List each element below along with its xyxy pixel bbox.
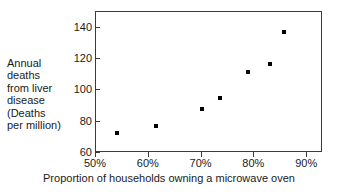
x-axis-tick-label: 60%	[137, 157, 159, 169]
y-axis-tick	[95, 27, 100, 28]
y-axis-tick	[95, 58, 100, 59]
x-axis-tick-label: 50%	[84, 157, 106, 169]
y-axis-label-line: from liver	[7, 82, 69, 94]
plot-frame	[95, 11, 322, 152]
y-axis-label: Annualdeathsfrom liverdisease(Deathsper …	[7, 57, 69, 131]
y-axis-tick-label: 140	[64, 21, 92, 32]
data-point	[154, 124, 158, 128]
y-axis-label-line: Annual	[7, 57, 69, 69]
data-point	[200, 107, 204, 111]
x-axis-tick-label: 70%	[190, 157, 212, 169]
y-axis-tick	[95, 89, 100, 90]
data-point	[246, 70, 250, 74]
x-axis-tick-label: 90%	[295, 157, 317, 169]
data-point	[282, 30, 286, 34]
y-axis-label-line: (Deaths	[7, 107, 69, 119]
x-axis-label: Proportion of households owning a microw…	[0, 172, 338, 185]
x-axis-tick-label: 80%	[242, 157, 264, 169]
y-axis-tick-label: 60	[64, 147, 92, 158]
scatter-plot-figure: 6080100120140 Annualdeathsfrom liverdise…	[0, 0, 338, 194]
y-axis-label-line: disease	[7, 94, 69, 106]
data-point	[268, 62, 272, 66]
y-axis-label-line: deaths	[7, 69, 69, 81]
y-axis-tick	[95, 121, 100, 122]
y-axis-label-line: per million)	[7, 119, 69, 131]
plot-area	[96, 12, 321, 151]
data-point	[218, 96, 222, 100]
data-point	[115, 131, 119, 135]
